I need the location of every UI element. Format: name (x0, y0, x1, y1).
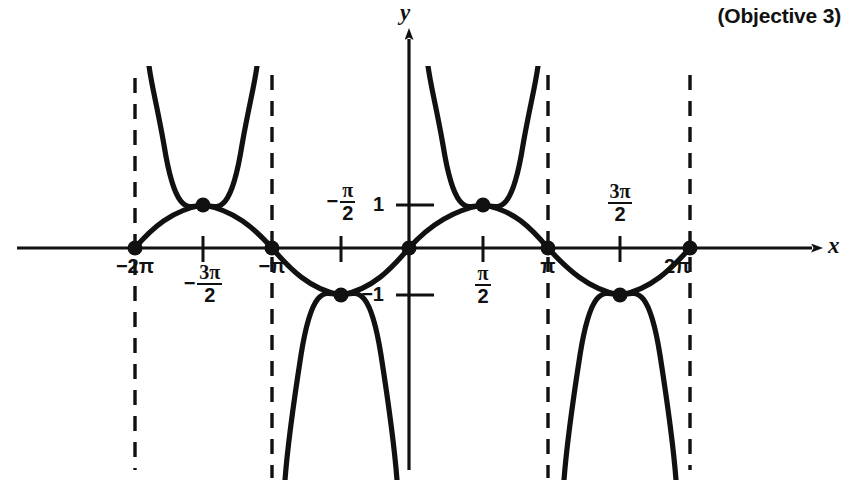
fraction-denominator: 2 (475, 286, 490, 307)
fraction-numerator: 3π (608, 181, 633, 204)
figure-page: (Objective 3) y x −2π − 3π 2 −π − π 2 π … (0, 0, 853, 488)
y-tick-label-neg-one: −1 (330, 283, 384, 306)
fraction-denominator: 2 (608, 204, 633, 225)
point-dot (196, 198, 211, 213)
x-tick-label-neg-pi: −π (232, 255, 312, 278)
fraction-denominator: 2 (197, 285, 222, 306)
csc-branch-0-to-pi-left (428, 66, 483, 207)
fraction-sign: − (184, 272, 196, 295)
csc-branch-neg2pi-to-negpi-right (203, 66, 257, 207)
csc-branch-negpi-to-0-left (285, 293, 341, 480)
objective-label: (Objective 3) (718, 4, 841, 28)
x-tick-label-pi: π (508, 255, 588, 278)
fraction-sign: − (327, 190, 339, 213)
point-dot (476, 198, 491, 213)
csc-branch-pi-to-2pi-right (620, 293, 676, 480)
x-tick-label-3pi-over-2: 3π 2 (580, 180, 660, 225)
fraction-numerator: π (475, 263, 490, 286)
x-tick-label-neg-3pi-over-2: − 3π 2 (163, 262, 243, 306)
x-axis-label: x (828, 233, 840, 259)
point-dot (613, 288, 628, 303)
graph-canvas (0, 0, 853, 488)
point-dot (128, 241, 143, 256)
csc-branch-0-to-pi-right (483, 66, 538, 207)
point-dot (402, 241, 417, 256)
point-dot (541, 241, 556, 256)
fraction-numerator: 3π (197, 262, 222, 285)
x-tick-label-2pi: 2π (664, 255, 744, 278)
y-tick-label-one: 1 (338, 193, 384, 216)
csc-branch-pi-to-2pi-left (564, 293, 620, 480)
csc-branch-neg2pi-to-negpi (149, 66, 203, 207)
point-dot (683, 241, 698, 256)
y-axis-label: y (400, 0, 410, 26)
point-dot (265, 241, 280, 256)
csc-branch-negpi-to-0-right (341, 293, 397, 480)
